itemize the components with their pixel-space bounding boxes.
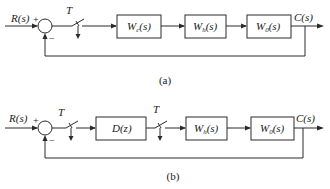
- minus-sign-b: −: [49, 135, 55, 146]
- arrow-icon: [43, 135, 48, 141]
- summing-junction-a: [38, 19, 52, 33]
- diagram-a: R(s) + − T Wc(s) Wh(s) W0(s): [5, 4, 324, 87]
- block-dz-label: D(z): [111, 122, 132, 135]
- diagram-b: R(s) + − T D(z) T Wh(s): [5, 103, 324, 183]
- sampler-switch-a: [72, 19, 84, 39]
- arrow-icon: [245, 126, 251, 131]
- input-label-a: R(s): [10, 12, 30, 25]
- arrow-icon: [241, 24, 247, 29]
- block-w0-label: W0(s): [256, 20, 281, 34]
- arrow-icon: [180, 126, 186, 131]
- block-wh-label: Wh(s): [193, 20, 218, 34]
- block-diagrams: R(s) + − T Wc(s) Wh(s) W0(s): [0, 0, 330, 189]
- output-label-a: C(s): [294, 11, 313, 24]
- sampler2-label-b: T: [153, 103, 160, 115]
- arrow-icon: [90, 126, 96, 131]
- arrow-icon: [317, 24, 324, 29]
- sampler-switch-b2: [155, 121, 167, 141]
- plus-sign-b: +: [33, 115, 39, 126]
- output-label-b: C(s): [296, 112, 315, 125]
- caption-a: (a): [159, 74, 172, 87]
- sampler1-label-b: T: [58, 106, 65, 118]
- block-wc-label: Wc(s): [127, 20, 151, 34]
- caption-b: (b): [167, 170, 180, 183]
- arrow-icon: [111, 24, 117, 29]
- arrow-icon: [179, 24, 185, 29]
- arrow-icon: [317, 126, 324, 131]
- arrow-icon: [32, 126, 38, 131]
- block-wh-b-label: Wh(s): [194, 122, 219, 136]
- sampler-switch-b1: [66, 121, 78, 141]
- minus-sign-a: −: [49, 33, 55, 44]
- input-label-b: R(s): [8, 112, 28, 125]
- sampler-label-a: T: [66, 4, 73, 16]
- summing-junction-b: [38, 121, 52, 135]
- arrow-icon: [43, 33, 48, 39]
- block-w0-b-label: W0(s): [260, 122, 285, 136]
